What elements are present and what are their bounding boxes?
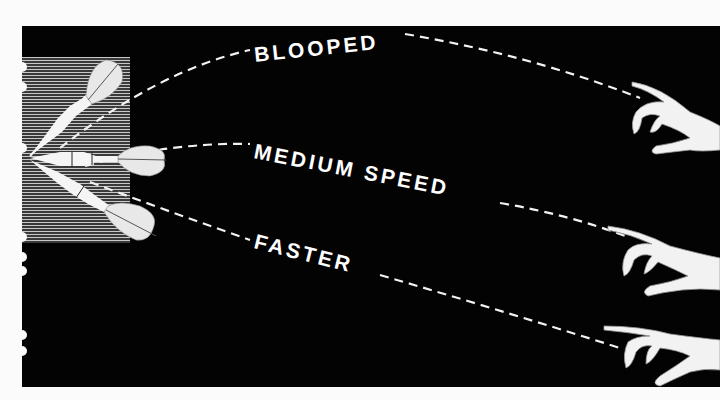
middle-hand xyxy=(608,226,720,296)
label-faster: FASTER xyxy=(252,230,355,277)
label-medium-speed: MEDIUM SPEED xyxy=(252,139,451,199)
trajectory-diagram: BLOOPED MEDIUM SPEED FASTER xyxy=(0,0,720,400)
faster-trajectory xyxy=(380,275,620,348)
medium-trajectory xyxy=(500,203,625,236)
blooped-trajectory xyxy=(405,34,640,98)
upper-hand xyxy=(632,82,720,154)
upper-dart xyxy=(30,60,123,156)
label-blooped: BLOOPED xyxy=(253,30,380,66)
lower-hand xyxy=(604,326,720,386)
medium-trajectory xyxy=(85,144,250,166)
